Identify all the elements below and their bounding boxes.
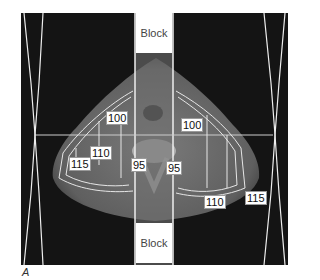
figure-caption: A (22, 266, 29, 278)
ct-image-frame: Block Block 100 100 110 110 115 115 95 9… (21, 13, 288, 265)
isodose-label-95-right: 95 (166, 161, 182, 175)
isodose-label-110-right: 110 (204, 195, 226, 209)
isodose-label-100-right: 100 (181, 118, 203, 132)
block-bottom: Block (136, 223, 172, 263)
isodose-label-115-right: 115 (245, 191, 267, 205)
isodose-label-110-left: 110 (90, 146, 112, 160)
isodose-label-100-left: 100 (106, 111, 128, 125)
isodose-label-115-left: 115 (69, 157, 91, 171)
isodose-label-95-left: 95 (131, 158, 147, 172)
block-bottom-label: Block (141, 237, 168, 249)
block-top-label: Block (141, 27, 168, 39)
block-top: Block (136, 13, 172, 53)
